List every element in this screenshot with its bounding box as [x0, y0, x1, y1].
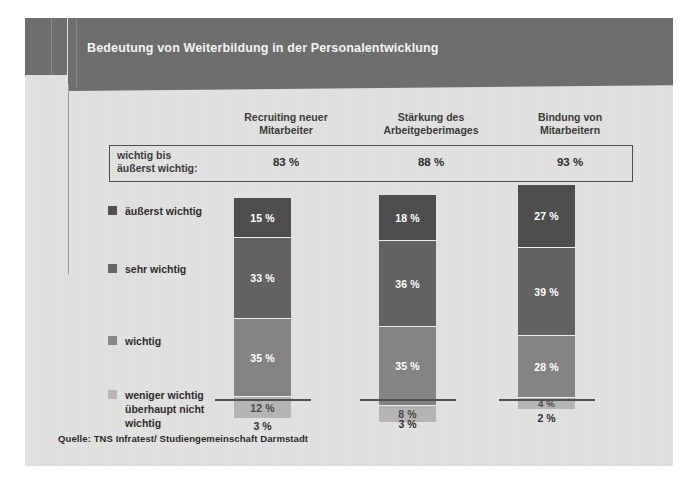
- left-vertical-rule: [68, 84, 69, 274]
- page-title: Bedeutung von Weiterbildung in der Perso…: [87, 41, 439, 55]
- bar-2-value-sehr-wichtig: 36 %: [395, 278, 420, 290]
- bar-1-segment-sehr-wichtig: 33 %: [234, 238, 291, 319]
- bar-1-value-ueberhaupt-nicht-wichtig: 3 %: [234, 420, 291, 432]
- summary-label: wichtig bis äußerst wichtig:: [117, 149, 237, 175]
- legend-label-aeusserst-wichtig: äußerst wichtig: [125, 204, 202, 218]
- header-left-block: [25, 18, 67, 75]
- chart-figure-panel: Bedeutung von Weiterbildung in der Perso…: [25, 18, 673, 466]
- legend-label-sehr-wichtig: sehr wichtig: [125, 262, 186, 276]
- summary-value-1: 83 %: [226, 156, 346, 168]
- header-left-block-seam: [51, 18, 52, 75]
- bar-1-value-aeusserst-wichtig: 15 %: [250, 212, 275, 224]
- legend-label-wichtig: wichtig: [125, 334, 161, 348]
- bar-column-1: 15 % 33 % 35 % 12 %: [234, 198, 291, 418]
- legend-swatch-weniger-wichtig: [108, 390, 117, 399]
- legend-swatch-wichtig: [108, 336, 117, 345]
- legend-item-aeusserst-wichtig: äußerst wichtig: [108, 204, 202, 218]
- bar-1-value-wichtig: 35 %: [250, 352, 275, 364]
- legend-label-line1: äußerst wichtig: [125, 204, 202, 218]
- summary-value-3: 93 %: [510, 156, 630, 168]
- bar-2-segment-aeusserst-wichtig: 18 %: [379, 195, 436, 241]
- legend-label-weniger-wichtig: weniger wichtig überhaupt nicht wichtig: [125, 388, 204, 430]
- bar-3-value-aeusserst-wichtig: 27 %: [534, 210, 559, 222]
- bar-3-value-sehr-wichtig: 39 %: [534, 286, 559, 298]
- legend-label-line1: wichtig: [125, 334, 161, 348]
- bar-1-segment-wichtig: 35 %: [234, 319, 291, 397]
- summary-label-line2: äußerst wichtig:: [117, 162, 237, 175]
- baseline-rule-2: [360, 399, 456, 401]
- bar-2-value-wichtig: 35 %: [395, 360, 420, 372]
- baseline-rule-3: [499, 399, 595, 401]
- column-header-3-line1: Bindung von: [485, 111, 655, 124]
- screenshot-root: Bedeutung von Weiterbildung in der Perso…: [0, 0, 697, 492]
- column-header-3-line2: Mitarbeitern: [485, 124, 655, 137]
- legend-label-line1: sehr wichtig: [125, 262, 186, 276]
- bar-1-segment-aeusserst-wichtig: 15 %: [234, 198, 291, 238]
- bar-column-3: 27 % 39 % 28 % 4 %: [518, 185, 575, 409]
- summary-label-line1: wichtig bis: [117, 149, 237, 162]
- bar-1-value-weniger-wichtig: 12 %: [250, 402, 275, 414]
- bar-2-segment-sehr-wichtig: 36 %: [379, 241, 436, 327]
- bar-3-segment-aeusserst-wichtig: 27 %: [518, 185, 575, 248]
- legend-swatch-sehr-wichtig: [108, 264, 117, 273]
- legend-label-line1: weniger wichtig: [125, 388, 204, 402]
- legend-swatch-aeusserst-wichtig: [108, 206, 117, 215]
- bar-column-2: 18 % 36 % 35 % 8 %: [379, 195, 436, 422]
- legend-label-line3: wichtig: [125, 416, 204, 430]
- column-header-3: Bindung von Mitarbeitern: [485, 111, 655, 137]
- header-band-seam: [76, 18, 77, 88]
- legend-label-line2: überhaupt nicht: [125, 402, 204, 416]
- legend-item-weniger-wichtig: weniger wichtig überhaupt nicht wichtig: [108, 388, 204, 430]
- legend-item-wichtig: wichtig: [108, 334, 161, 348]
- bar-3-value-wichtig: 28 %: [534, 361, 559, 373]
- bar-2-value-aeusserst-wichtig: 18 %: [395, 212, 420, 224]
- bar-2-value-ueberhaupt-nicht-wichtig: 3 %: [379, 418, 436, 430]
- summary-value-2: 88 %: [371, 156, 491, 168]
- bar-1-value-sehr-wichtig: 33 %: [250, 272, 275, 284]
- legend-item-sehr-wichtig: sehr wichtig: [108, 262, 186, 276]
- baseline-rule-1: [215, 399, 311, 401]
- bar-3-value-ueberhaupt-nicht-wichtig: 2 %: [518, 412, 575, 424]
- bar-3-segment-wichtig: 28 %: [518, 336, 575, 398]
- source-note: Quelle: TNS Infratest/ Studiengemeinscha…: [58, 433, 308, 444]
- bar-2-segment-wichtig: 35 %: [379, 327, 436, 406]
- bar-3-segment-sehr-wichtig: 39 %: [518, 248, 575, 336]
